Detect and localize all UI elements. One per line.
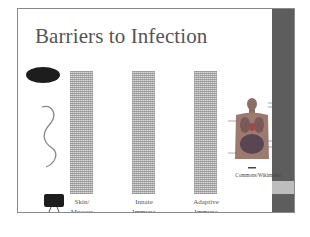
human-anatomy-figure	[228, 97, 283, 172]
barrier-column-adaptive	[194, 71, 217, 194]
label-line: Innate	[114, 198, 174, 208]
column-label-innate: Innate Immune System	[114, 198, 174, 213]
label-line: Immune	[114, 208, 174, 214]
easel-icon	[41, 193, 67, 213]
barrier-column-innate	[132, 71, 155, 194]
slide-title: Barriers to Infection	[35, 24, 207, 49]
slide: Barriers to Infection Skin/ Mucous Membr…	[17, 8, 295, 213]
black-oval-icon	[26, 67, 60, 83]
column-label-adaptive: Adaptive Immune System	[176, 198, 236, 213]
label-line: Adaptive	[176, 198, 236, 208]
label-line: Immune	[176, 208, 236, 214]
squiggle-pathogen-icon	[38, 104, 62, 169]
image-credit: Commons/Wikimedia	[223, 172, 293, 178]
barrier-column-skin	[70, 71, 93, 194]
side-stripe-highlight	[272, 181, 294, 194]
